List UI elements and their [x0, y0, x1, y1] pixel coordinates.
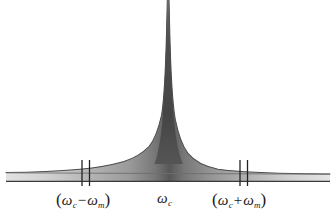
lower-sideband-symbol-modulation: ω: [87, 192, 98, 208]
spectrum-plot-svg: [0, 0, 334, 219]
upper-sideband-close-paren: ): [261, 190, 267, 209]
carrier-symbol: ω: [157, 190, 168, 206]
lower-sideband-label: (ωc−ωm): [56, 191, 110, 210]
upper-sideband-subscript-m: m: [254, 200, 261, 210]
carrier-label: ωc: [157, 191, 172, 208]
upper-sideband-operator: +: [233, 192, 243, 208]
lower-sideband-close-paren: ): [105, 190, 111, 209]
lower-sideband-operator: −: [77, 192, 87, 208]
carrier-subscript-c: c: [168, 198, 172, 208]
lower-sideband-symbol-carrier: ω: [62, 192, 73, 208]
upper-sideband-label: (ωc+ωm): [212, 191, 266, 210]
spectrum-figure: (ωc−ωm) ωc (ωc+ωm): [0, 0, 334, 219]
upper-sideband-subscript-c: c: [228, 200, 232, 210]
lower-sideband-subscript-m: m: [98, 200, 105, 210]
upper-sideband-symbol-carrier: ω: [218, 192, 229, 208]
lower-sideband-subscript-c: c: [72, 200, 76, 210]
upper-sideband-symbol-modulation: ω: [243, 192, 254, 208]
